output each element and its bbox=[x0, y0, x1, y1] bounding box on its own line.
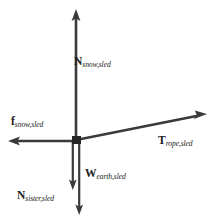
label-tension-rope-subscript: rope,sled bbox=[166, 139, 193, 148]
label-tension-rope: Trope,sled bbox=[158, 131, 193, 147]
origin-point bbox=[72, 136, 81, 144]
label-tension-rope-symbol: T bbox=[158, 134, 166, 146]
label-weight-earth-symbol: W bbox=[85, 167, 97, 179]
vector-normal-sister bbox=[75, 140, 83, 215]
label-normal-snow: Nsnow,sled bbox=[74, 52, 111, 68]
vector-normal-snow bbox=[72, 9, 81, 140]
label-friction-snow-subscript: snow,sled bbox=[15, 120, 43, 129]
vector-weight-earth bbox=[69, 140, 77, 190]
label-normal-sister: Nsister,sled bbox=[17, 186, 54, 202]
label-normal-sister-subscript: sister,sled bbox=[25, 194, 54, 203]
free-body-diagram: Nsnow,sled fsnow,sled Trope,sled Wearth,… bbox=[0, 0, 217, 224]
vector-friction-snow bbox=[8, 137, 76, 146]
label-normal-snow-subscript: snow,sled bbox=[82, 60, 110, 69]
label-weight-earth-subscript: earth,sled bbox=[97, 172, 126, 181]
label-weight-earth: Wearth,sled bbox=[85, 164, 126, 180]
label-friction-snow: fsnow,sled bbox=[11, 112, 43, 128]
